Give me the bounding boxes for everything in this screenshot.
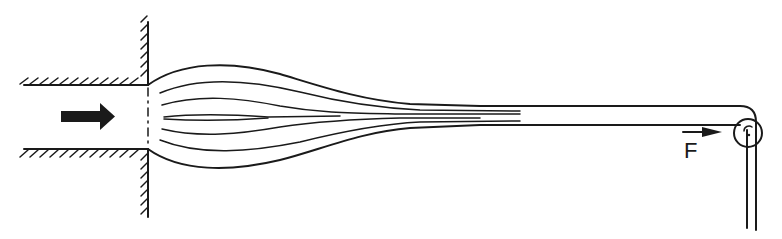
force-label: F bbox=[684, 140, 697, 162]
extrusion-diagram bbox=[0, 0, 782, 239]
die-lower-wall bbox=[20, 149, 148, 157]
bulge-contour bbox=[148, 65, 756, 230]
die-face-wall bbox=[141, 16, 148, 217]
right-arrow-icon bbox=[61, 103, 115, 130]
die-upper-wall bbox=[20, 78, 148, 85]
force-arrow-icon bbox=[683, 127, 722, 137]
